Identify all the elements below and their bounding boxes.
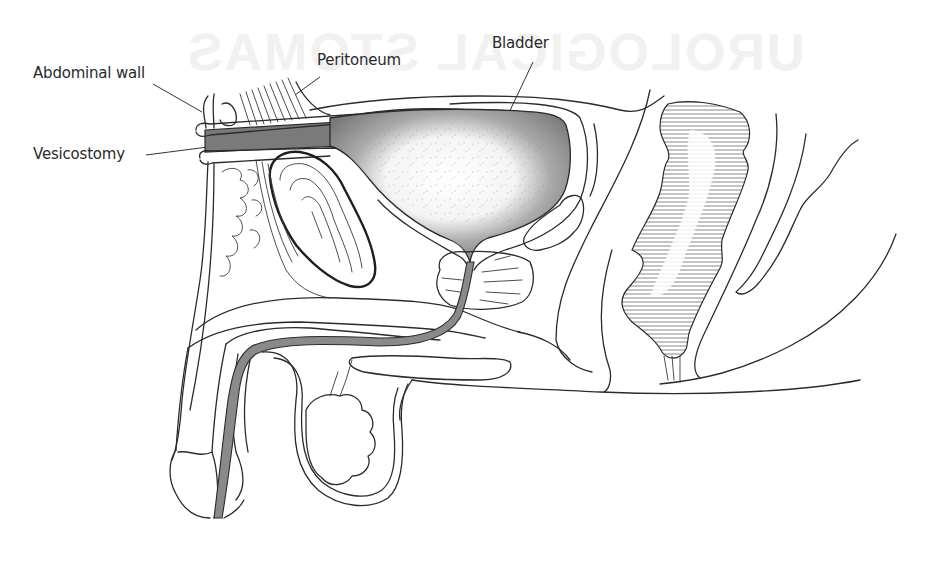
prostate [437, 251, 533, 309]
rectum [622, 102, 750, 382]
perineal-structures [349, 332, 860, 420]
urethra [214, 262, 474, 518]
diagram-stage: UROLOGICAL STOMAS [0, 0, 925, 566]
anatomy-illustration [0, 0, 925, 566]
label-bladder: Bladder [492, 34, 549, 52]
label-vesicostomy: Vesicostomy [33, 145, 125, 163]
label-peritoneum: Peritoneum [317, 51, 401, 69]
label-abdominal-wall: Abdominal wall [33, 64, 145, 82]
leader-abdominal-wall [153, 84, 202, 112]
prevesical-fat [220, 168, 262, 276]
leader-vesicostomy [146, 147, 208, 155]
pubic-bone [270, 152, 375, 287]
